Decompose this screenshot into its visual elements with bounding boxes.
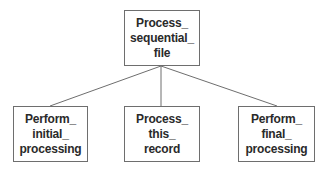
node-process-this-record: Process_ this_ record — [124, 106, 200, 162]
edge-root-to-final — [161, 66, 277, 106]
node-perform-initial-processing: Perform_ initial_ processing — [13, 106, 88, 162]
node-label-line: this_ — [148, 127, 175, 142]
node-label-line: Process_ — [136, 16, 188, 31]
node-label-line: processing — [245, 142, 307, 157]
hierarchy-diagram: Process_ sequential_ file Perform_ initi… — [0, 0, 326, 173]
node-label-line: Perform_ — [251, 112, 302, 127]
node-label-line: sequential_ — [130, 31, 194, 46]
edge-root-to-initial — [50, 66, 161, 106]
node-label-line: file — [154, 46, 171, 61]
node-label-line: Perform_ — [25, 112, 76, 127]
node-label-line: initial_ — [32, 127, 68, 142]
node-label-line: final_ — [261, 127, 291, 142]
node-perform-final-processing: Perform_ final_ processing — [238, 106, 315, 162]
node-label-line: Process_ — [136, 112, 188, 127]
node-label-line: processing — [19, 142, 81, 157]
node-process-sequential-file: Process_ sequential_ file — [124, 10, 200, 66]
node-label-line: record — [144, 142, 180, 157]
